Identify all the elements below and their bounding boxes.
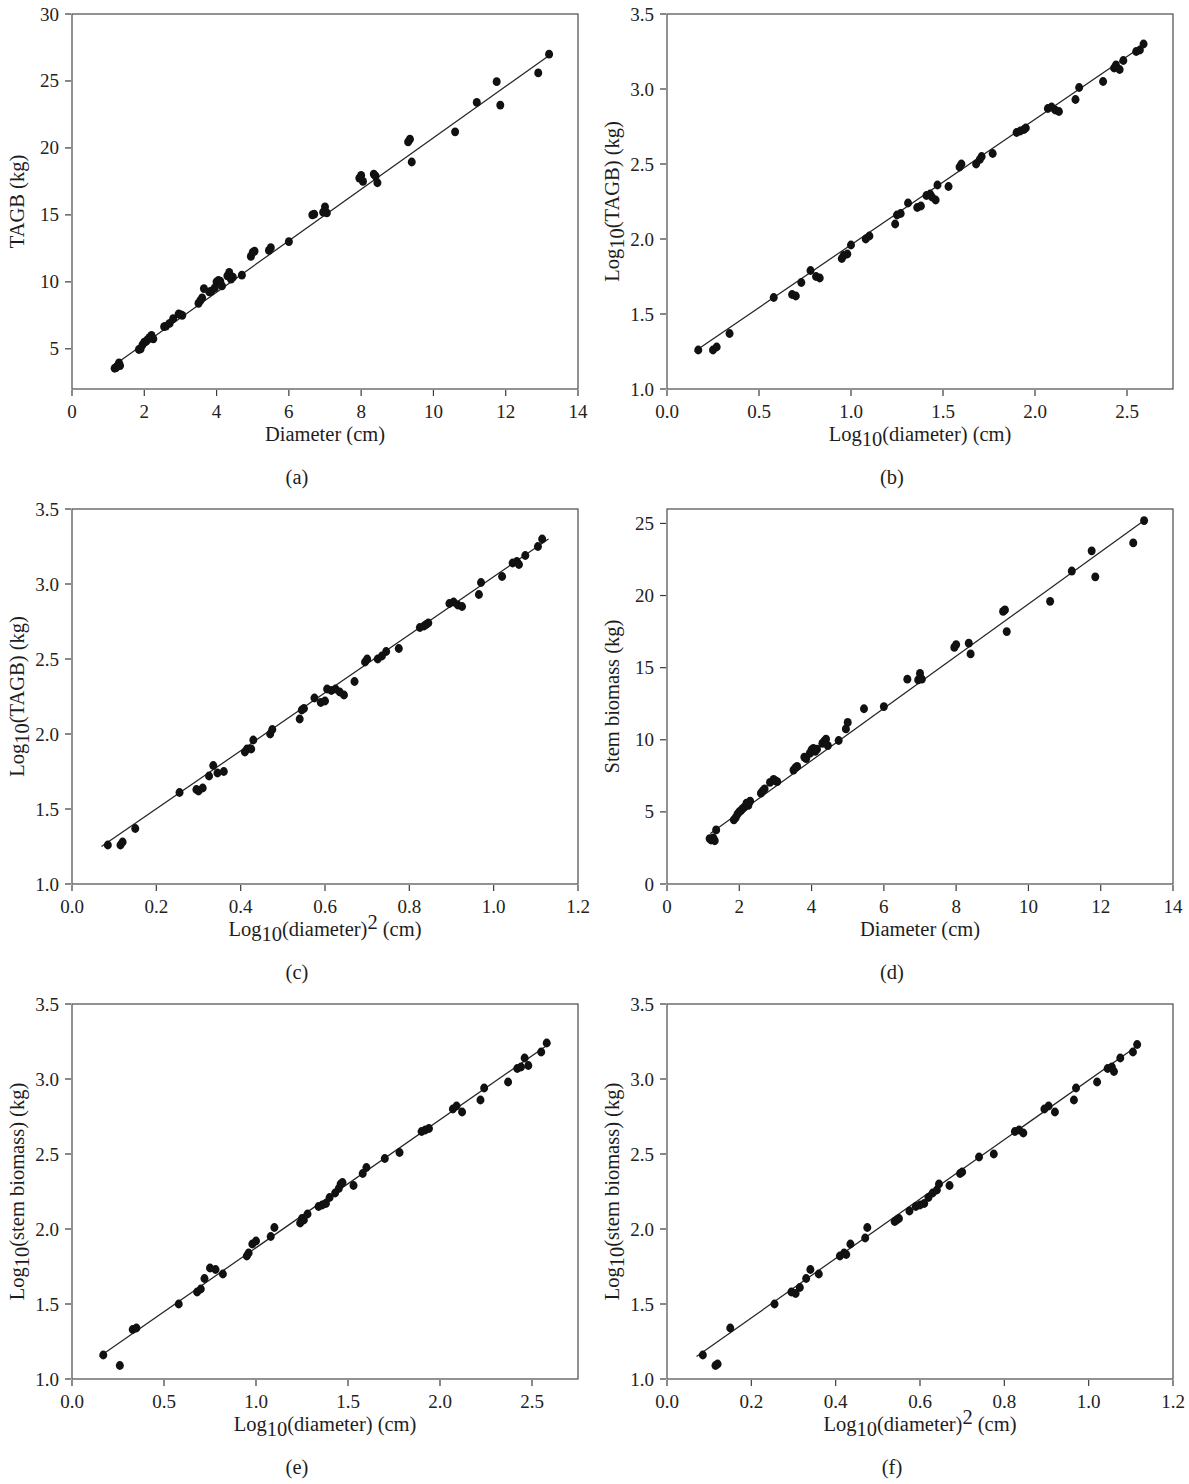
- data-point: [373, 178, 381, 187]
- data-point: [824, 741, 832, 750]
- data-point: [458, 602, 466, 611]
- y-axis-title: TAGB (kg): [6, 155, 29, 248]
- svg-text:Log10(stem biomass) (kg): Log10(stem biomass) (kg): [601, 1083, 628, 1301]
- data-point: [498, 572, 506, 581]
- x-tick-label: 2.0: [428, 1391, 452, 1412]
- data-point: [296, 715, 304, 724]
- data-point: [176, 788, 184, 797]
- data-point: [903, 675, 911, 684]
- data-point: [792, 292, 800, 301]
- data-point: [197, 1285, 205, 1294]
- x-axis-title: Diameter (cm): [265, 423, 385, 446]
- x-tick-label: 10: [424, 401, 443, 422]
- data-point: [363, 655, 371, 664]
- data-point: [952, 640, 960, 649]
- data-point: [476, 1096, 484, 1105]
- data-point: [395, 644, 403, 653]
- regression-fit-line: [114, 54, 551, 365]
- data-point: [1019, 1129, 1027, 1138]
- data-point: [793, 762, 801, 771]
- y-tick-label: 15: [40, 204, 59, 225]
- data-point: [844, 718, 852, 727]
- svg-text:Log10(TAGB) (kg): Log10(TAGB) (kg): [601, 121, 628, 282]
- svg-text:Stem biomass (kg): Stem biomass (kg): [601, 620, 624, 774]
- x-tick-label: 0.4: [824, 1391, 848, 1412]
- data-point: [699, 1351, 707, 1360]
- data-point: [245, 1249, 253, 1258]
- data-point: [252, 1237, 260, 1246]
- data-point: [1046, 597, 1054, 606]
- panel-a: 0246810121451015202530Diameter (cm)TAGB …: [0, 0, 594, 494]
- data-point: [537, 1048, 545, 1057]
- regression-fit-line: [710, 521, 1144, 834]
- data-point: [238, 271, 246, 280]
- x-axis-title: Log10(diameter) (cm): [829, 423, 1012, 450]
- y-tick-label: 2.0: [630, 1219, 654, 1240]
- data-point: [304, 1210, 312, 1219]
- data-point: [199, 784, 207, 793]
- y-tick-label: 1.0: [35, 1369, 59, 1390]
- y-axis: 0510152025: [635, 513, 666, 895]
- panel-b: 0.00.51.01.52.02.51.01.52.02.53.03.5Log1…: [595, 0, 1189, 494]
- y-tick-label: 25: [635, 513, 654, 534]
- panel-caption: (a): [286, 466, 309, 489]
- data-point: [493, 77, 501, 86]
- data-point: [713, 343, 721, 352]
- data-point: [424, 619, 432, 628]
- x-tick-label: 10: [1019, 896, 1038, 917]
- y-tick-label: 1.5: [35, 799, 59, 820]
- data-point: [543, 1039, 551, 1048]
- data-point: [477, 578, 485, 587]
- data-point: [891, 220, 899, 229]
- data-point: [865, 232, 873, 241]
- data-point: [451, 127, 459, 136]
- data-point: [712, 826, 720, 835]
- data-point: [806, 1265, 814, 1274]
- data-point: [1071, 95, 1079, 104]
- x-tick-label: 8: [356, 401, 366, 422]
- x-tick-label: 1.5: [931, 401, 955, 422]
- x-tick-label: 1.2: [566, 896, 590, 917]
- data-point: [458, 1108, 466, 1117]
- x-tick-label: 0.6: [313, 896, 337, 917]
- x-tick-label: 1.5: [336, 1391, 360, 1412]
- plot-frame: [72, 509, 578, 884]
- y-tick-label: 10: [635, 729, 654, 750]
- data-point: [1003, 627, 1011, 636]
- data-point: [773, 777, 781, 786]
- x-tick-label: 0.5: [152, 1391, 176, 1412]
- x-tick-label: 0: [662, 896, 672, 917]
- y-tick-label: 0: [645, 874, 655, 895]
- x-axis: 02468101214: [662, 885, 1183, 917]
- data-point: [534, 69, 542, 78]
- x-tick-label: 8: [951, 896, 961, 917]
- x-tick-label: 2.5: [520, 1391, 544, 1412]
- data-point: [816, 274, 824, 283]
- data-point: [351, 677, 359, 686]
- data-point: [880, 702, 888, 711]
- y-tick-label: 3.0: [35, 1069, 59, 1090]
- y-tick-label: 10: [40, 271, 59, 292]
- y-axis-title: Stem biomass (kg): [601, 620, 624, 774]
- plot-frame: [667, 509, 1173, 884]
- data-point: [1140, 516, 1148, 525]
- panel-c: 0.00.20.40.60.81.01.21.01.52.02.53.03.5L…: [0, 495, 594, 989]
- x-tick-label: 6: [879, 896, 889, 917]
- data-point: [521, 1054, 529, 1063]
- data-point: [350, 1181, 358, 1190]
- x-axis: 0.00.20.40.60.81.01.2: [655, 1380, 1185, 1412]
- data-point: [362, 1163, 370, 1172]
- data-point: [842, 1250, 850, 1259]
- data-point: [861, 1234, 869, 1243]
- scatter-plot-b: 0.00.51.01.52.02.51.01.52.02.53.03.5Log1…: [595, 0, 1189, 494]
- y-tick-label: 5: [50, 338, 60, 359]
- data-point: [946, 1181, 954, 1190]
- x-tick-label: 0: [67, 401, 77, 422]
- data-point: [694, 346, 702, 355]
- y-tick-label: 2.0: [35, 724, 59, 745]
- data-point: [957, 160, 965, 169]
- y-tick-label: 1.5: [35, 1294, 59, 1315]
- y-tick-label: 1.5: [630, 1294, 654, 1315]
- data-point: [918, 675, 926, 684]
- panel-caption: (f): [882, 1456, 902, 1479]
